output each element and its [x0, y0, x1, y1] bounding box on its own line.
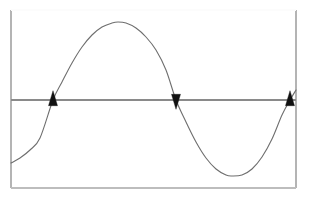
sine-curve-figure	[0, 0, 310, 199]
figure-canvas	[0, 0, 310, 199]
